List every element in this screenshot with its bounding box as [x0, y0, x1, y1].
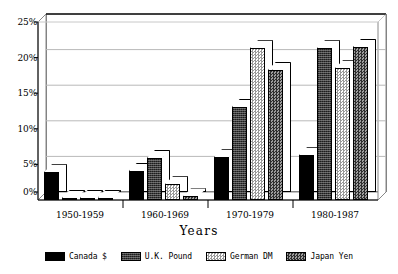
legend-label: U.K. Pound [145, 252, 192, 261]
bar-front-face [250, 48, 265, 200]
bar-front-face [98, 198, 113, 200]
legend-swatch-german-dm-icon [206, 252, 226, 261]
bar-front-face [232, 107, 247, 200]
x-tick-label: 1980-1987 [311, 210, 359, 220]
legend-item: U.K. Pound [121, 252, 192, 261]
legend-swatch-japan-yen-icon [286, 252, 306, 261]
bar-front-face [147, 158, 162, 200]
bar-front-face [183, 196, 198, 200]
bar-front-face [80, 198, 95, 200]
legend-swatch-canada-icon [45, 252, 65, 261]
x-tick-label: 1960-1969 [141, 210, 189, 220]
bar-chart: 0% 5% 10% 15% 20% 25% 1950-1959 1960-196… [0, 0, 398, 274]
y-tick-label: 20% [3, 53, 37, 63]
y-tick-label: 25% [3, 17, 37, 27]
bar-front-face [129, 171, 144, 200]
bar-side-face [368, 39, 376, 192]
x-tick-label: 1970-1979 [226, 210, 274, 220]
bar-front-face [165, 184, 180, 200]
legend-item: Japan Yen [286, 252, 352, 261]
y-tick-label: 5% [3, 159, 37, 169]
bar-side-face [283, 62, 291, 192]
y-tick-label: 10% [3, 124, 37, 134]
legend-label: Japan Yen [310, 252, 352, 261]
y-tick-label: 15% [3, 88, 37, 98]
bar-front-face [268, 70, 283, 200]
bar-front-face [299, 155, 314, 200]
bar-front-face [335, 68, 350, 200]
chart-legend: Canada $ U.K. Pound German DM Japan Yen [0, 248, 398, 264]
bar-front-face [317, 48, 332, 200]
bar-front-face [44, 172, 59, 200]
y-tick-label: 0% [3, 187, 37, 197]
bar-front-face [353, 47, 368, 200]
bar-front-face [214, 157, 229, 200]
legend-label: German DM [230, 252, 272, 261]
legend-item: German DM [206, 252, 272, 261]
x-tick-label: 1950-1959 [56, 210, 104, 220]
legend-label: Canada $ [69, 252, 107, 261]
bar-front-face [62, 198, 77, 200]
x-axis-title: Years [0, 224, 398, 238]
legend-item: Canada $ [45, 252, 107, 261]
legend-swatch-uk-pound-icon [121, 252, 141, 261]
